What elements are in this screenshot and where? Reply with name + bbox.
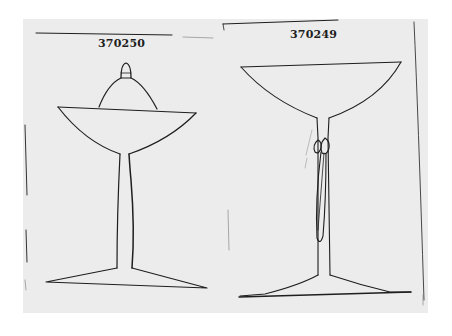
- glass-drawings: [0, 0, 452, 336]
- catalog-number-left: 370250: [98, 37, 145, 50]
- left-glass-figure: [46, 63, 207, 288]
- right-glass-figure: [239, 62, 411, 297]
- catalog-number-right: 370249: [290, 28, 337, 41]
